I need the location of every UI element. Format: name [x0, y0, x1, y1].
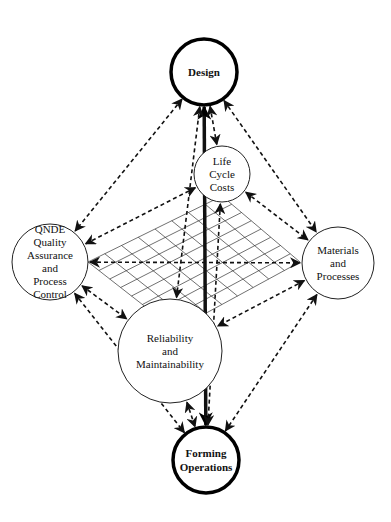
- node-label: Processes: [317, 270, 360, 282]
- edge-qnde-materials: [90, 262, 300, 263]
- edge-design-life_cycle_costs: [210, 106, 217, 144]
- node-label: and: [162, 345, 178, 357]
- node-label: Maintainability: [136, 358, 204, 370]
- node-label: Cycle: [209, 168, 235, 180]
- edge-life_cycle_costs-qnde: [86, 188, 196, 244]
- node-label: Design: [188, 66, 220, 78]
- node-materials: MaterialsandProcesses: [302, 227, 374, 299]
- node-label: Control: [33, 288, 67, 300]
- edge-reliability-forming: [187, 402, 195, 426]
- grid-line: [189, 213, 269, 280]
- node-label: and: [42, 262, 58, 274]
- node-label: Costs: [210, 181, 234, 193]
- edge-qnde-reliability: [82, 286, 126, 319]
- grid-line: [222, 196, 300, 262]
- node-forming: FormingOperations: [173, 427, 239, 493]
- interaction-diagram: DesignLifeCycleCostsQNDEQualityAssurance…: [0, 0, 391, 522]
- edge-design-qnde: [75, 99, 182, 231]
- node-qnde: QNDEQualityAssuranceandProcessControl: [12, 223, 88, 300]
- node-label: Forming: [186, 447, 227, 459]
- node-label: and: [330, 257, 346, 269]
- node-label: Quality: [34, 236, 67, 248]
- edge-materials-reliability: [218, 281, 305, 326]
- grid-line: [172, 221, 253, 288]
- node-label: Reliability: [147, 332, 194, 344]
- edge-design-reliability: [177, 107, 200, 298]
- node-life-cycle-costs: LifeCycleCosts: [194, 146, 250, 202]
- nodes: DesignLifeCycleCostsQNDEQualityAssurance…: [12, 39, 374, 493]
- node-label: QNDE: [35, 223, 66, 235]
- node-reliability: ReliabilityandMaintainability: [118, 299, 222, 403]
- node-label: Assurance: [27, 249, 73, 261]
- node-label: Process: [33, 275, 67, 287]
- node-label: Operations: [180, 461, 233, 473]
- node-label: Materials: [317, 244, 359, 256]
- node-label: Life: [213, 155, 231, 167]
- node-design: Design: [171, 39, 237, 105]
- edge-life_cycle_costs-materials: [246, 192, 308, 240]
